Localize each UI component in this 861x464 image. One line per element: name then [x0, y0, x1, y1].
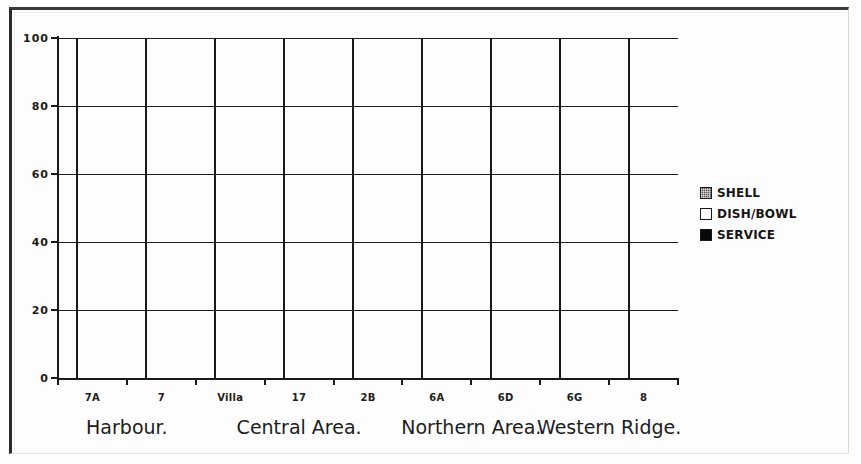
legend-label: SHELL: [717, 186, 760, 200]
legend-swatch-icon: [700, 208, 712, 220]
x-axis-tick: [126, 378, 128, 385]
gridline: [58, 242, 678, 243]
gridline: [58, 106, 678, 107]
chart-figure: 020406080100 7A7Villa172B6A6D6G8 Harbour…: [0, 0, 861, 464]
bar-6g: [559, 38, 561, 378]
x-axis-tick: [195, 378, 197, 385]
plot-area: 020406080100: [58, 38, 678, 378]
y-axis-tick-label: 80: [32, 100, 49, 113]
bar-8: [628, 38, 630, 378]
y-axis-tick: [51, 105, 58, 107]
legend-swatch-icon: [700, 187, 712, 199]
x-axis-tick: [608, 378, 610, 385]
x-axis-tick: [470, 378, 472, 385]
x-axis-category-label: 8: [640, 392, 647, 403]
gridline: [58, 174, 678, 175]
x-axis-tick: [539, 378, 541, 385]
bar-6d: [490, 38, 492, 378]
x-axis-tick: [264, 378, 266, 385]
y-axis-tick-label: 40: [32, 236, 49, 249]
y-axis-tick: [51, 37, 58, 39]
y-axis-tick: [51, 173, 58, 175]
y-axis-tick-label: 0: [40, 372, 49, 385]
y-axis-tick: [51, 241, 58, 243]
x-axis-tick: [677, 378, 679, 385]
x-axis-group-label: Western Ridge.: [537, 416, 681, 438]
x-axis-category-label: 6D: [498, 392, 514, 403]
x-axis-group-label: Northern Area.: [401, 416, 541, 438]
x-axis-tick: [57, 378, 59, 385]
y-axis-line: [57, 36, 59, 380]
bar-villa: [214, 38, 216, 378]
y-axis-tick-label: 20: [32, 304, 49, 317]
x-axis-category-label: 7: [158, 392, 165, 403]
bar-17: [283, 38, 285, 378]
gridline: [58, 310, 678, 311]
legend-label: DISH/BOWL: [717, 207, 797, 221]
x-axis-category-label: 6A: [429, 392, 444, 403]
x-axis-category-label: 2B: [360, 392, 375, 403]
x-axis-line: [57, 378, 679, 380]
x-axis-tick: [333, 378, 335, 385]
x-axis-group-label: Central Area.: [237, 416, 362, 438]
x-axis-group-label: Harbour.: [86, 416, 168, 438]
x-axis-category-label: Villa: [217, 392, 243, 403]
y-axis-tick: [51, 309, 58, 311]
bar-6a: [421, 38, 423, 378]
bar-7a: [76, 38, 78, 378]
x-axis-tick: [401, 378, 403, 385]
legend-item: SHELL: [700, 186, 797, 200]
x-axis-category-label: 17: [292, 392, 307, 403]
x-axis-category-label: 6G: [567, 392, 583, 403]
y-axis-tick-label: 100: [23, 32, 49, 45]
bar-2b: [352, 38, 354, 378]
legend-item: SERVICE: [700, 228, 797, 242]
legend-item: DISH/BOWL: [700, 207, 797, 221]
x-axis-category-label: 7A: [85, 392, 100, 403]
y-axis-tick-label: 60: [32, 168, 49, 181]
gridline: [58, 38, 678, 39]
legend-label: SERVICE: [717, 228, 775, 242]
legend-swatch-icon: [700, 229, 712, 241]
chart-legend: SHELLDISH/BOWLSERVICE: [700, 186, 797, 249]
bar-7: [145, 38, 147, 378]
